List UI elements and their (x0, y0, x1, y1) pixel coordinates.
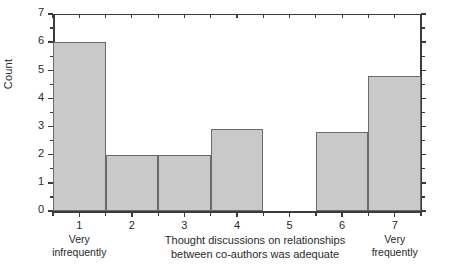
right-axis-tick (421, 98, 426, 99)
y-tick-label-6: 6 (38, 34, 44, 47)
top-spine-tick (184, 14, 185, 18)
x-bin-edge-tick (368, 212, 369, 216)
plot-area: 01234567 1Veryinfrequently234567Veryfreq… (53, 14, 422, 212)
bar-2 (106, 155, 159, 211)
top-spine-tick (342, 14, 343, 18)
x-bin-edge-tick (263, 212, 264, 216)
top-spine-tick (289, 14, 290, 18)
x-bin-edge-tick (52, 212, 53, 216)
x-tick-3 (184, 212, 185, 217)
x-tick-1 (79, 212, 80, 217)
top-spine-tick (315, 14, 316, 18)
x-tick-label-6: 6 (339, 219, 345, 231)
x-bin-edge-tick (420, 212, 421, 216)
x-tick-label-5: 5 (287, 219, 293, 231)
right-axis-minor-tick (421, 168, 425, 169)
y-tick-label-1: 1 (38, 175, 44, 188)
y-tick-label-3: 3 (38, 119, 44, 132)
histogram-chart: Count 01234567 1Veryinfrequently234567Ve… (0, 0, 464, 272)
x-bin-edge-tick (315, 212, 316, 216)
x-tick-label-3: 3 (181, 219, 187, 231)
x-tick-label-7: 7 (392, 219, 398, 231)
top-spine-tick (263, 14, 264, 18)
x-sublabel-1-line2: infrequently (52, 246, 106, 259)
x-sublabel-1: Veryinfrequently (52, 233, 106, 258)
right-axis-minor-tick (421, 140, 425, 141)
right-axis-tick (421, 182, 426, 183)
bar-1 (53, 42, 106, 211)
top-spine-tick (79, 14, 80, 18)
top-spine-tick (368, 14, 369, 18)
top-spine-tick (52, 14, 53, 18)
y-tick-label-0: 0 (38, 203, 44, 216)
x-tick-6 (341, 212, 342, 217)
bar-7 (368, 76, 421, 211)
y-tick-label-4: 4 (38, 91, 44, 104)
x-tick-4 (236, 212, 237, 217)
x-bin-edge-tick (158, 212, 159, 216)
bar-4 (211, 129, 264, 211)
x-tick-2 (131, 212, 132, 217)
right-axis-tick (421, 70, 426, 71)
right-axis-minor-tick (421, 84, 425, 85)
y-tick-label-2: 2 (38, 147, 44, 160)
top-spine-tick (394, 14, 395, 18)
y-minor-tick (50, 27, 53, 28)
x-axis-title-line1: Thought discussions on relationships (130, 234, 380, 248)
x-bin-edge-tick (210, 212, 211, 216)
right-axis-minor-tick (421, 27, 425, 28)
x-tick-label-1: 1 (76, 219, 82, 231)
right-axis-tick (421, 126, 426, 127)
bar-6 (316, 132, 369, 211)
right-axis-minor-tick (421, 112, 425, 113)
top-spine-tick (158, 14, 159, 18)
x-axis-title-line2: between co-authors was adequate (130, 248, 380, 262)
x-tick-7 (394, 212, 395, 217)
bar-3 (158, 155, 211, 211)
top-spine-tick (236, 14, 237, 18)
right-axis-tick (421, 41, 426, 42)
x-tick-label-4: 4 (234, 219, 240, 231)
top-spine-tick (105, 14, 106, 18)
x-tick-label-2: 2 (129, 219, 135, 231)
top-spine-tick (131, 14, 132, 18)
x-tick-5 (289, 212, 290, 217)
y-axis-title: Count (2, 34, 14, 114)
x-bin-edge-tick (105, 212, 106, 216)
right-axis-tick (421, 154, 426, 155)
right-axis-tick (421, 13, 426, 14)
right-axis-minor-tick (421, 196, 425, 197)
x-axis-title: Thought discussions on relationships bet… (130, 234, 380, 261)
x-sublabel-1-line1: Very (52, 233, 106, 246)
top-spine-tick (210, 14, 211, 18)
right-axis-minor-tick (421, 56, 425, 57)
right-axis-tick (421, 210, 426, 211)
y-tick-label-7: 7 (38, 6, 44, 19)
y-tick-label-5: 5 (38, 63, 44, 76)
